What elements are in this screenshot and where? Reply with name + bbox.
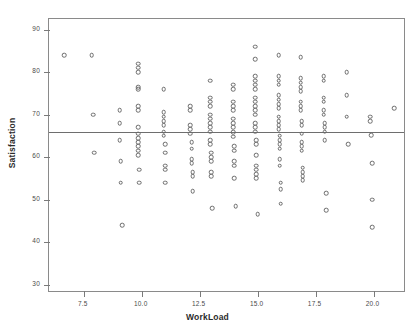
x-axis-tick-label: 12.5 (192, 300, 205, 307)
data-point (255, 212, 260, 217)
data-point (254, 153, 259, 158)
data-point (163, 151, 168, 156)
x-axis-tick (316, 291, 317, 297)
x-axis-tick (200, 291, 201, 297)
data-point (232, 148, 237, 153)
data-point (233, 204, 238, 209)
data-point (253, 129, 258, 134)
data-point (117, 108, 122, 113)
data-point (163, 168, 168, 173)
data-point (117, 138, 122, 143)
x-axis-tick-label: 20.0 (366, 300, 379, 307)
data-point (190, 189, 195, 194)
data-point (299, 131, 304, 136)
data-point (231, 108, 236, 113)
data-point (163, 180, 168, 185)
data-point (279, 201, 284, 206)
plot-area (48, 18, 405, 292)
data-point (208, 129, 213, 134)
data-point (321, 112, 326, 117)
data-point (253, 57, 258, 62)
data-point (298, 55, 303, 60)
y-axis-tick (44, 200, 50, 201)
data-point (276, 127, 281, 132)
x-axis-tick-label: 7.5 (78, 300, 88, 307)
data-point (345, 93, 350, 98)
data-point (277, 157, 282, 162)
y-axis-tick-label: 50 (24, 195, 40, 202)
data-point (136, 108, 141, 113)
x-axis-tick-label: 10.0 (134, 300, 147, 307)
data-point (321, 78, 326, 83)
data-point (277, 163, 282, 168)
data-point (136, 70, 141, 75)
data-point (119, 180, 124, 185)
data-point (298, 89, 303, 94)
y-axis-tick-label: 70 (24, 110, 40, 117)
x-axis-title: WorkLoad (0, 312, 415, 322)
data-point (136, 125, 141, 130)
data-point (188, 108, 193, 113)
data-point (279, 187, 284, 192)
data-point (231, 125, 236, 130)
data-point (369, 133, 374, 138)
y-axis-tick-label: 40 (24, 237, 40, 244)
data-point (254, 142, 259, 147)
data-point (161, 87, 166, 92)
data-point (254, 176, 259, 181)
y-axis-tick-label: 30 (24, 280, 40, 287)
data-point (62, 53, 67, 58)
data-point (117, 121, 122, 126)
data-point (253, 87, 258, 92)
x-axis-tick (84, 291, 85, 297)
data-point (346, 142, 351, 147)
data-point (301, 178, 306, 183)
data-point (209, 174, 214, 179)
data-point (323, 129, 328, 134)
data-point (231, 134, 236, 139)
data-point (232, 176, 237, 181)
data-point (370, 225, 375, 230)
y-axis-tick (44, 285, 50, 286)
y-axis-tick-label: 60 (24, 152, 40, 159)
data-point (189, 140, 194, 145)
data-point (277, 146, 282, 151)
data-point (210, 206, 215, 211)
y-axis-tick (44, 242, 50, 243)
data-point (161, 123, 166, 128)
data-point (161, 134, 166, 139)
data-point (324, 208, 329, 213)
data-point (368, 119, 373, 124)
data-point (136, 87, 141, 92)
data-point (345, 70, 350, 75)
data-point (253, 112, 258, 117)
x-axis-tick (142, 291, 143, 297)
y-axis-tick (44, 115, 50, 116)
data-point (208, 104, 213, 109)
x-axis-tick (374, 291, 375, 297)
reference-line (49, 132, 404, 133)
data-point (299, 148, 304, 153)
data-point (370, 161, 375, 166)
scatter-plot-figure: 304050607080907.510.012.515.017.520.0 Wo… (0, 0, 415, 335)
data-point (392, 106, 397, 111)
data-point (253, 44, 258, 49)
data-point (276, 53, 281, 58)
data-point (189, 161, 194, 166)
x-axis-tick-label: 17.5 (308, 300, 321, 307)
x-axis-tick (258, 291, 259, 297)
data-point (298, 108, 303, 113)
data-point (279, 180, 284, 185)
data-point (188, 131, 193, 136)
data-point (276, 106, 281, 111)
data-point (231, 87, 236, 92)
data-point (370, 197, 375, 202)
data-point (208, 78, 213, 83)
data-point (90, 53, 95, 58)
x-axis-tick-label: 15.0 (250, 300, 263, 307)
data-point (119, 159, 124, 164)
y-axis-tick-label: 90 (24, 25, 40, 32)
data-point (120, 223, 125, 228)
y-axis-tick (44, 30, 50, 31)
data-point (190, 174, 195, 179)
